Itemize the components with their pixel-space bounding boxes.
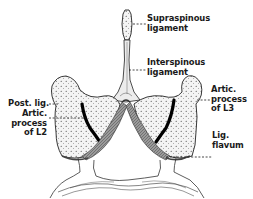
label-supraspinous-ligament: Supraspinous ligament <box>147 14 210 33</box>
articular-process-l3 <box>134 76 202 158</box>
label-ligamentum-flavum: Lig. flavum <box>212 131 244 150</box>
label-articular-process-l2: Artic. process of L2 <box>2 109 47 138</box>
articular-process-l2 <box>52 76 121 158</box>
vertebral-body <box>50 158 204 198</box>
supraspinous-ligament-shape <box>122 10 132 40</box>
label-articular-process-l3: Artic. process of L3 <box>211 85 247 114</box>
diagram-canvas: Supraspinous ligament Interspinous ligam… <box>0 0 253 199</box>
interspinous-ligament-shape <box>112 40 140 102</box>
label-interspinous-ligament: Interspinous ligament <box>147 58 205 77</box>
